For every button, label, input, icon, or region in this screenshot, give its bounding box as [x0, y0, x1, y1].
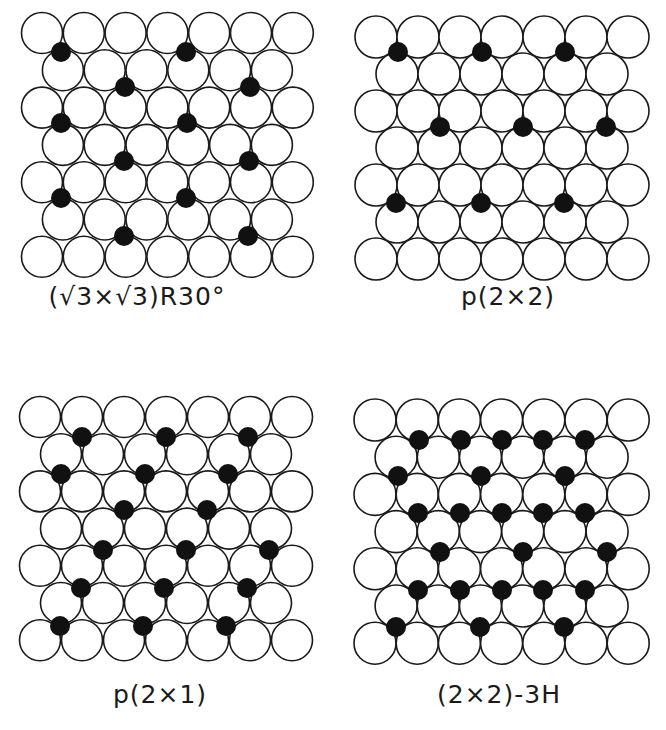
substrate-atom [607, 473, 649, 515]
adsorbate-atom [388, 466, 408, 486]
substrate-atom [376, 127, 418, 169]
adsorbate-atom [238, 226, 258, 246]
substrate-atom [544, 127, 586, 169]
adsorbate-atom [554, 193, 574, 213]
adsorbate-atom [114, 151, 134, 171]
adsorbate-atom [156, 427, 176, 447]
substrate-atom [20, 545, 61, 586]
substrate-atom [355, 238, 397, 280]
panel-sqrt3-x-sqrt3-r30 [22, 13, 314, 278]
substrate-atom [22, 236, 63, 277]
adsorbate-atom [177, 113, 197, 133]
adsorbate-atom [470, 617, 490, 637]
substrate-atom [105, 13, 146, 54]
adsorbate-atom [154, 578, 174, 598]
adsorbate-atom [575, 580, 595, 600]
adsorbate-atom [72, 427, 92, 447]
substrate-atom [607, 238, 649, 280]
adsorbate-atom [533, 430, 553, 450]
substrate-atom [502, 53, 544, 95]
adsorbate-atom [238, 427, 258, 447]
substrate-atom [272, 397, 313, 438]
adsorbate-atom [430, 542, 450, 562]
substrate-atom [272, 236, 313, 277]
adsorbate-atom [492, 503, 512, 523]
substrate-atom [189, 236, 230, 277]
adsorbate-atom [218, 464, 238, 484]
substrate-atom [460, 127, 502, 169]
substrate-atom [523, 238, 565, 280]
panel-p2x1 [20, 397, 313, 661]
substrate-atom [354, 548, 396, 590]
adsorbate-atom [240, 77, 260, 97]
panel-label-2x2-3h: (2×2)-3H [437, 680, 561, 709]
adsorbate-atom [575, 430, 595, 450]
adsorbate-atom [93, 540, 113, 560]
adsorbate-atom [408, 503, 428, 523]
adsorbate-atom [176, 42, 196, 62]
panel-p2x2 [355, 16, 649, 280]
adsorbate-atom [237, 578, 257, 598]
adsorbate-atom [50, 616, 70, 636]
substrate-atom [188, 397, 229, 438]
substrate-atom [607, 622, 649, 664]
adsorbate-atom [176, 188, 196, 208]
adsorbate-atom [471, 193, 491, 213]
panel-label-p2x1: p(2×1) [113, 680, 207, 709]
substrate-atom [439, 238, 481, 280]
adsorbate-atom [51, 464, 71, 484]
adsorbate-atom [51, 113, 71, 133]
substrate-atom [586, 201, 628, 243]
substrate-atom [354, 399, 396, 441]
substrate-atom [565, 238, 607, 280]
substrate-atom [418, 53, 460, 95]
adsorbate-atom [451, 430, 471, 450]
adsorbate-atom [386, 617, 406, 637]
adsorbate-atom [575, 503, 595, 523]
adsorbate-atom [472, 42, 492, 62]
adsorbate-atom [408, 580, 428, 600]
substrate-atom [418, 201, 460, 243]
adsorbate-atom [513, 542, 533, 562]
substrate-atom [147, 236, 188, 277]
adsorbate-atom [450, 580, 470, 600]
adsorbate-atom [533, 580, 553, 600]
substrate-atom [104, 397, 145, 438]
substrate-atom [20, 397, 61, 438]
adsorbate-atom [492, 430, 512, 450]
adsorbate-atom [388, 42, 408, 62]
adsorbate-atom [239, 151, 259, 171]
adsorbate-atom [133, 616, 153, 636]
substrate-atom [607, 164, 649, 206]
substrate-atom [272, 620, 313, 661]
adsorbate-atom [51, 188, 71, 208]
adsorbate-atom [471, 466, 491, 486]
adsorbate-atom [51, 42, 71, 62]
substrate-atom [607, 16, 649, 58]
adsorbate-atom [596, 117, 616, 137]
substrate-atom [481, 238, 523, 280]
overlayer-figure [0, 0, 666, 730]
substrate-atom [41, 508, 82, 549]
adsorbate-atom [492, 580, 512, 600]
adsorbate-atom [554, 617, 574, 637]
adsorbate-atom [597, 542, 617, 562]
adsorbate-atom [135, 464, 155, 484]
substrate-atom [272, 471, 313, 512]
adsorbate-atom [115, 77, 135, 97]
adsorbate-atom [114, 500, 134, 520]
substrate-atom [63, 236, 104, 277]
substrate-atom [355, 90, 397, 132]
adsorbate-atom [114, 226, 134, 246]
adsorbate-atom [555, 466, 575, 486]
substrate-atom [231, 13, 272, 54]
adsorbate-atom [71, 578, 91, 598]
adsorbate-atom [216, 616, 236, 636]
adsorbate-atom [259, 540, 279, 560]
panel-label-p2x2: p(2×2) [461, 282, 555, 311]
substrate-atom [502, 201, 544, 243]
adsorbate-atom [450, 503, 470, 523]
adsorbate-atom [176, 540, 196, 560]
substrate-atom [586, 53, 628, 95]
adsorbate-atom [533, 503, 553, 523]
